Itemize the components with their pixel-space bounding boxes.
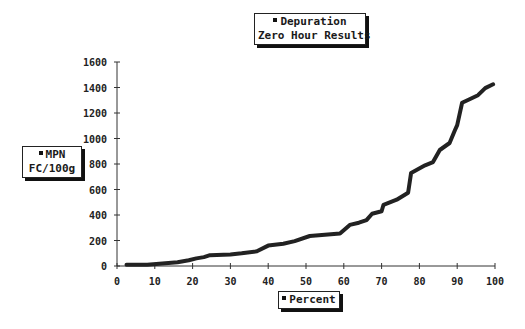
y-tick-label: 1400: [83, 83, 107, 94]
y-tick-label: 800: [89, 159, 107, 170]
data-line: [127, 84, 494, 264]
x-tick-label: 70: [376, 276, 388, 287]
x-tick-label: 20: [187, 276, 199, 287]
x-tick-label: 100: [486, 276, 504, 287]
y-tick-label: 200: [89, 236, 107, 247]
y-tick-label: 1600: [83, 57, 107, 68]
x-tick-label: 40: [262, 276, 274, 287]
line-chart: 0102030405060708090100020040060080010001…: [0, 0, 525, 329]
x-tick-label: 0: [114, 276, 120, 287]
x-tick-label: 60: [338, 276, 350, 287]
y-tick-label: 1000: [83, 134, 107, 145]
y-tick-label: 0: [101, 261, 107, 272]
x-tick-label: 90: [451, 276, 463, 287]
y-tick-label: 1200: [83, 108, 107, 119]
x-tick-label: 80: [413, 276, 425, 287]
y-tick-label: 400: [89, 210, 107, 221]
y-tick-label: 600: [89, 185, 107, 196]
x-tick-label: 10: [149, 276, 161, 287]
x-tick-label: 30: [224, 276, 236, 287]
x-tick-label: 50: [300, 276, 312, 287]
